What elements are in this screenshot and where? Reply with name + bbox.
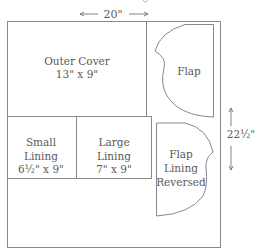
svg-text:Lining: Lining: [24, 150, 58, 162]
svg-text:13" x 9": 13" x 9": [56, 68, 98, 80]
width-label: 20": [103, 8, 122, 21]
svg-text:Reversed: Reversed: [156, 176, 206, 188]
piece-flap-lining-reversed: Flap Lining Reversed: [156, 123, 213, 216]
cutting-layout-diagram: 20" Outer Cover 13" x 9" Flap Small Lini…: [0, 0, 256, 248]
svg-text:Lining: Lining: [164, 162, 198, 174]
svg-text:Flap: Flap: [177, 65, 201, 77]
fabric-outline: [8, 22, 221, 248]
piece-flap: Flap: [155, 25, 214, 118]
piece-outer-cover: Outer Cover 13" x 9": [8, 22, 147, 117]
svg-text:Outer Cover: Outer Cover: [44, 55, 111, 67]
svg-text:Flap: Flap: [169, 148, 193, 160]
svg-text:Small: Small: [26, 136, 57, 148]
svg-text:Lining: Lining: [97, 150, 131, 162]
svg-text:Large: Large: [98, 136, 129, 148]
height-dimension: 22½": [227, 108, 255, 170]
width-dimension: 20": [80, 8, 148, 21]
piece-small-lining: Small Lining 6½" x 9": [8, 117, 77, 179]
svg-text:6½" x 9": 6½" x 9": [18, 163, 64, 175]
svg-text:7" x 9": 7" x 9": [96, 163, 132, 175]
piece-large-lining: Large Lining 7" x 9": [77, 117, 152, 179]
accent-mark: [143, 0, 148, 2]
svg-text:22½": 22½": [227, 128, 255, 140]
